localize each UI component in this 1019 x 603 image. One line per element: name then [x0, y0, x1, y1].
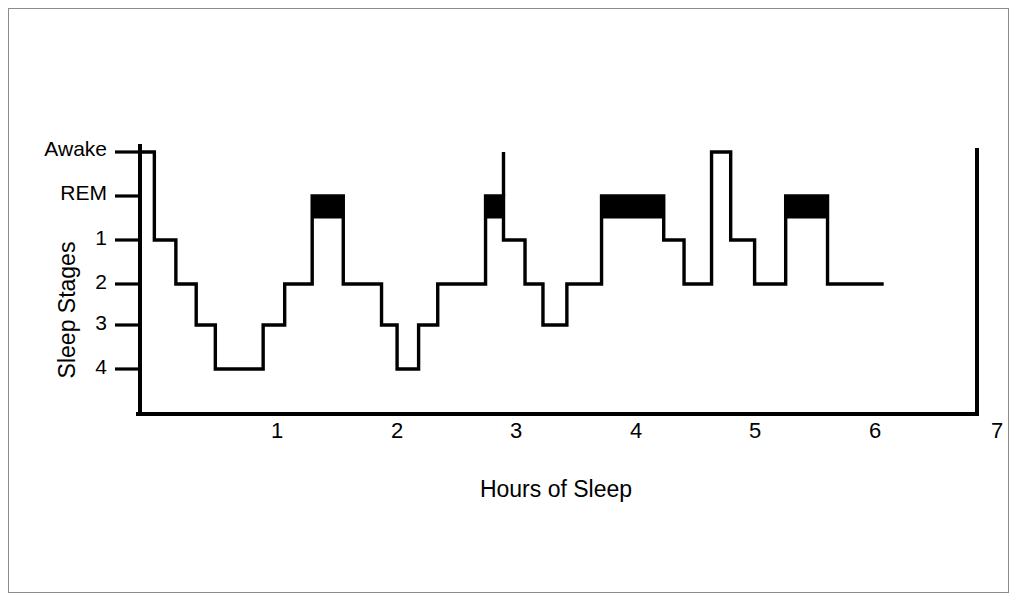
x-tick-label-2: 2: [391, 418, 403, 443]
rem-block-1: [312, 196, 343, 218]
x-tick-label-7: 7: [991, 418, 1003, 443]
x-axis-title: Hours of Sleep: [480, 476, 632, 502]
x-axis-tick-labels: 1 2 3 4 5 6 7: [271, 418, 1003, 443]
x-tick-label-1: 1: [271, 418, 283, 443]
y-axis-title: Sleep Stages: [54, 242, 80, 379]
y-tick-label-rem: REM: [60, 181, 107, 204]
y-tick-label-stage-3: 3: [95, 311, 107, 334]
rem-block-4: [786, 196, 828, 218]
hypnogram-step-trace: [140, 152, 884, 369]
y-tick-label-awake: Awake: [44, 137, 107, 160]
y-tick-label-stage-2: 2: [95, 270, 107, 293]
x-tick-label-3: 3: [510, 418, 522, 443]
rem-episode-blocks: [312, 196, 827, 218]
rem-block-2: [486, 196, 504, 218]
y-tick-label-stage-1: 1: [95, 226, 107, 249]
y-axis-ticks: [115, 152, 140, 369]
figure-root: Awake REM 1 2 3 4 Sleep Stages 1 2 3 4 5…: [0, 0, 1019, 603]
x-tick-label-5: 5: [749, 418, 761, 443]
rem-block-3: [602, 196, 664, 218]
y-tick-label-stage-4: 4: [95, 355, 107, 378]
x-tick-label-6: 6: [869, 418, 881, 443]
x-tick-label-4: 4: [630, 418, 642, 443]
hypnogram-chart: Awake REM 1 2 3 4 Sleep Stages 1 2 3 4 5…: [0, 0, 1019, 603]
